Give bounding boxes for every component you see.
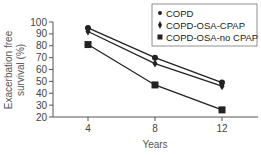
x-tick-label: 12 (216, 123, 228, 134)
y-tick-label: 20 (36, 112, 48, 123)
legend-label: COPD-OSA-CPAP (166, 20, 245, 31)
circle-marker-icon (158, 11, 162, 15)
legend-label: COPD-OSA-no CPAP (166, 32, 258, 43)
y-tick-label: 40 (36, 88, 48, 99)
y-tick-label: 30 (36, 100, 48, 111)
x-axis: 4812 (53, 117, 258, 134)
diamond-marker-icon (153, 60, 158, 68)
square-marker-icon (158, 35, 163, 40)
y-tick-label: 80 (36, 40, 48, 51)
legend-item-copd-osa-cpap: COPD-OSA-CPAP (158, 20, 245, 31)
x-tick-label: 8 (152, 123, 158, 134)
legend-label: COPD (166, 8, 194, 19)
square-marker-icon (152, 81, 159, 88)
line-chart: 2030405060708090100 4812 Exacerbation fr… (0, 0, 261, 155)
square-marker-icon (85, 41, 92, 48)
x-axis-title: Years (142, 139, 167, 150)
y-tick-label: 70 (36, 52, 48, 63)
y-tick-label: 50 (36, 76, 48, 87)
y-axis-title-line-2: survival (%) (15, 44, 26, 96)
legend-item-copd-osa-no-cpap: COPD-OSA-no CPAP (158, 32, 259, 43)
y-tick-label: 100 (30, 17, 47, 28)
series-copd-osa-no-cpap (85, 41, 226, 113)
y-tick-label: 60 (36, 64, 48, 75)
y-axis: 2030405060708090100 (30, 17, 53, 123)
square-marker-icon (219, 106, 226, 113)
x-tick-label: 4 (85, 123, 91, 134)
y-tick-label: 90 (36, 28, 48, 39)
y-axis-title-line-1: Exacerbation free (3, 30, 14, 109)
legend: COPD COPD-OSA-CPAP COPD-OSA-no CPAP (152, 4, 258, 46)
